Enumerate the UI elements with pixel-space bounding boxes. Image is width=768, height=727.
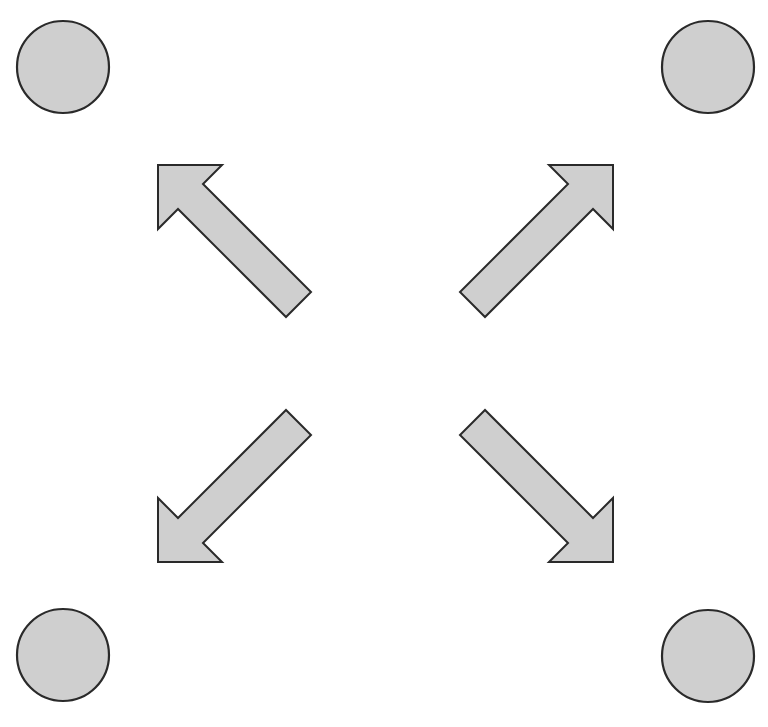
- circle-bottom-right: [662, 610, 754, 702]
- arrow-up-left-icon: [158, 165, 311, 317]
- arrow-up-right-icon: [460, 165, 613, 317]
- arrow-down-right-icon: [460, 410, 613, 562]
- circle-top-left: [17, 21, 109, 113]
- arrow-down-left-icon: [158, 410, 311, 562]
- circle-bottom-left: [17, 609, 109, 701]
- expand-diagram: [0, 0, 768, 727]
- circle-top-right: [662, 21, 754, 113]
